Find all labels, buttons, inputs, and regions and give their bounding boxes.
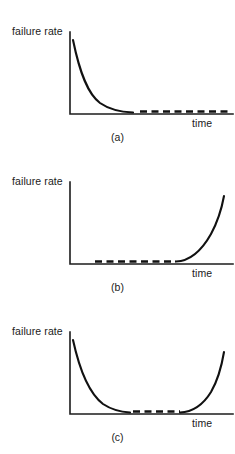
curve-decreasing-c [73, 340, 130, 413]
figure-caption-c: (c) [0, 431, 235, 443]
axes-b [70, 182, 233, 264]
y-axis-label-b: failure rate [12, 175, 63, 187]
curve-decreasing-a [73, 40, 133, 113]
figure-a: failure rate time (a) [0, 0, 235, 150]
x-axis-label-b: time [192, 267, 212, 279]
curve-increasing-c [180, 352, 224, 413]
curve-increasing-b [176, 196, 224, 262]
figure-b: failure rate time (b) [0, 150, 235, 300]
axes-a [70, 32, 233, 114]
figure-c: failure rate time (c) [0, 300, 235, 450]
figure-caption-b: (b) [0, 281, 235, 293]
axes-c [70, 332, 233, 414]
x-axis-label-c: time [192, 417, 212, 429]
x-axis-label-a: time [192, 117, 212, 129]
figure-caption-a: (a) [0, 131, 235, 143]
y-axis-label-c: failure rate [12, 325, 63, 337]
y-axis-label-a: failure rate [12, 25, 63, 37]
